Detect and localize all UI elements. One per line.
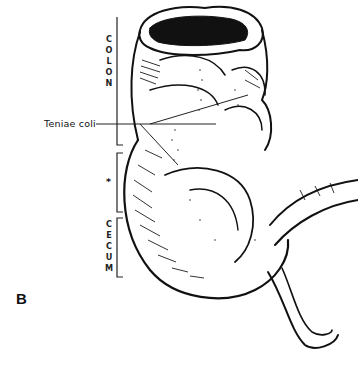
cecum-label: C E C U M [104, 219, 114, 274]
cecum-letter: U [104, 252, 114, 263]
colon-cecum-illustration [0, 0, 358, 377]
cecum-letter: E [104, 230, 114, 241]
colon-letter: L [104, 56, 114, 67]
panel-label: B [16, 290, 27, 307]
region-brackets [117, 17, 123, 277]
teniae-stipple [171, 69, 256, 241]
anatomical-figure: C O L O N Teniae coli * C E C U M B [0, 0, 358, 377]
colon-bracket [117, 17, 123, 145]
colon-letter: O [104, 45, 114, 56]
cecum-letter: C [104, 219, 114, 230]
organ-outline [124, 7, 358, 348]
asterisk-label: * [106, 176, 111, 187]
asterisk-bracket [117, 153, 123, 212]
hatch-shading [133, 60, 334, 278]
colon-letter: N [104, 78, 114, 89]
teniae-leader-lines [96, 95, 248, 165]
colon-label: C O L O N [104, 34, 114, 89]
cecum-letter: C [104, 241, 114, 252]
colon-letter: O [104, 67, 114, 78]
cecum-letter: M [104, 263, 114, 274]
teniae-coli-label: Teniae coli [44, 118, 96, 129]
colon-letter: C [104, 34, 114, 45]
cecum-bracket [117, 218, 123, 277]
